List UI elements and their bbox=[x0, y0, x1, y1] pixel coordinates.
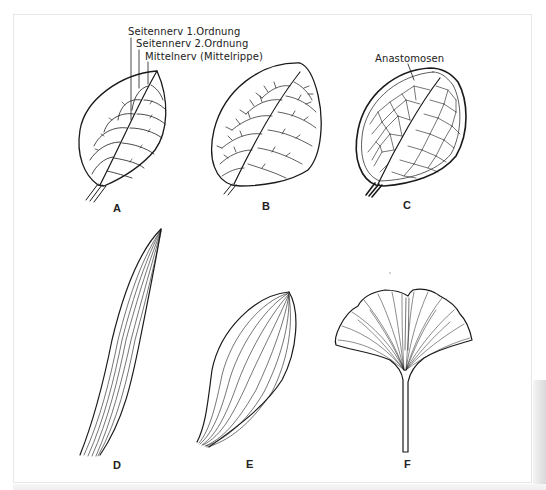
panel-label-d: D bbox=[113, 459, 121, 471]
leaf-b-reticulate bbox=[212, 63, 322, 195]
label-lateral-vein-first-order: Seitennerv 1.Ordnung bbox=[128, 26, 240, 37]
label-lateral-vein-second-order: Seitennerv 2.Ordnung bbox=[136, 38, 248, 49]
leaf-f-ginkgo-dichotomous bbox=[335, 272, 472, 452]
leaf-d-parallel bbox=[80, 229, 161, 456]
panel-label-f: F bbox=[404, 458, 411, 470]
label-anastomoses: Anastomosen bbox=[375, 53, 444, 64]
leaf-e-arcuate bbox=[197, 292, 296, 447]
panel-label-a: A bbox=[113, 202, 121, 214]
leaf-c-anastomoses bbox=[356, 64, 466, 197]
panel-label-b: B bbox=[262, 200, 270, 212]
leaf-a-pinnate bbox=[79, 38, 166, 202]
leaf-venation-diagram bbox=[0, 0, 546, 490]
panel-label-c: C bbox=[403, 199, 411, 211]
panel-label-e: E bbox=[246, 458, 253, 470]
label-midrib: Mittelnerv (Mittelrippe) bbox=[145, 51, 263, 62]
